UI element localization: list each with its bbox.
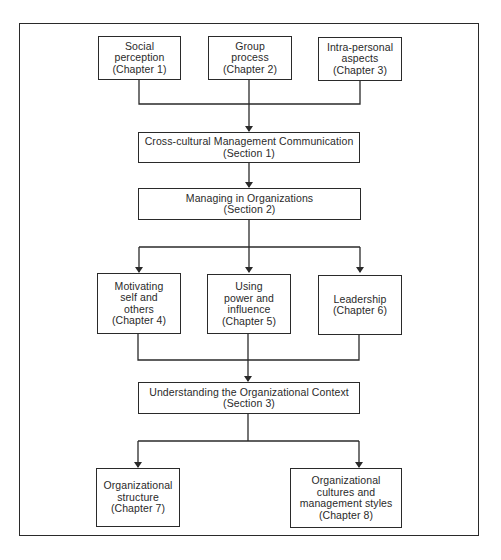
node-text: (Chapter 1) bbox=[112, 64, 166, 76]
node-text: Using bbox=[235, 281, 262, 293]
node-text: influence bbox=[228, 304, 271, 316]
node-text: (Chapter 2) bbox=[223, 64, 277, 76]
node-section-2: Managing in Organizations (Section 2) bbox=[138, 188, 361, 220]
node-text: (Chapter 8) bbox=[319, 510, 373, 522]
node-power-influence: Using power and influence (Chapter 5) bbox=[207, 274, 291, 334]
node-text: (Section 1) bbox=[223, 148, 275, 160]
node-section-1: Cross-cultural Management Communication … bbox=[138, 132, 360, 163]
node-text: Organizational bbox=[311, 475, 380, 487]
node-group-process: Group process (Chapter 2) bbox=[208, 36, 292, 80]
node-section-3: Understanding the Organizational Context… bbox=[138, 382, 360, 414]
node-text: (Chapter 6) bbox=[333, 305, 387, 317]
node-motivating: Motivating self and others (Chapter 4) bbox=[97, 273, 181, 334]
node-text: management styles bbox=[300, 498, 393, 510]
node-text: Cross-cultural Management Communication bbox=[145, 136, 354, 148]
node-leadership: Leadership (Chapter 6) bbox=[318, 275, 402, 335]
node-text: (Section 2) bbox=[224, 204, 276, 216]
node-cultures-management-styles: Organizational cultures and management s… bbox=[290, 468, 402, 528]
node-text: (Chapter 4) bbox=[112, 315, 166, 327]
node-intra-personal-aspects: Intra-personal aspects (Chapter 3) bbox=[318, 37, 402, 81]
node-text: (Section 3) bbox=[223, 398, 275, 410]
node-text: (Chapter 5) bbox=[222, 316, 276, 328]
node-social-perception: Social perception (Chapter 1) bbox=[98, 36, 181, 80]
node-text: self and bbox=[120, 292, 158, 304]
node-organizational-structure: Organizational structure (Chapter 7) bbox=[96, 468, 180, 527]
node-text: (Chapter 3) bbox=[333, 65, 387, 77]
node-text: (Chapter 7) bbox=[111, 503, 165, 515]
